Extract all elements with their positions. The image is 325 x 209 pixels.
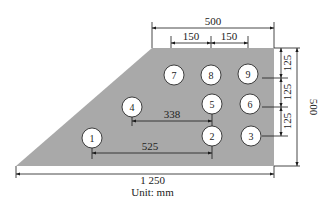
point-4: 4 (122, 97, 142, 117)
point-8: 8 (201, 65, 221, 85)
point-7: 7 (164, 65, 184, 85)
point-1-label: 1 (90, 133, 95, 144)
unit-label: Unit: mm (0, 186, 315, 198)
point-1: 1 (82, 128, 102, 148)
bottom-total-label: 1 250 (0, 174, 315, 186)
right-spacing-1-label: 125 (281, 54, 293, 71)
point-3: 3 (241, 126, 261, 146)
top-spacing-2-label: 150 (221, 30, 238, 42)
right-spacing-2-label: 125 (281, 83, 293, 100)
point-6-label: 6 (248, 99, 253, 110)
point-9: 9 (238, 64, 258, 84)
point-2: 2 (202, 126, 222, 146)
point-9-label: 9 (246, 69, 251, 80)
dimension-1-to-2-label: 525 (142, 140, 159, 152)
point-4-label: 4 (130, 102, 135, 113)
right-total-label: 500 (308, 99, 320, 116)
point-6: 6 (240, 94, 260, 114)
point-8-label: 8 (209, 70, 214, 81)
top-total-label: 500 (205, 15, 222, 27)
point-3-label: 3 (249, 131, 254, 142)
dimension-4-to-5-label: 338 (164, 108, 181, 120)
point-5-label: 5 (210, 99, 215, 110)
point-5: 5 (202, 94, 222, 114)
top-spacing-1-label: 150 (183, 30, 200, 42)
point-7-label: 7 (172, 70, 177, 81)
point-2-label: 2 (210, 131, 215, 142)
right-spacing-3-label: 125 (281, 112, 293, 129)
